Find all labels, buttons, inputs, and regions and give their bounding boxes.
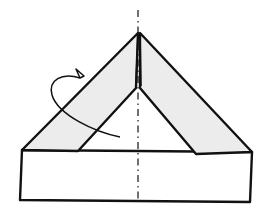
right-flap [140,33,252,154]
left-flap [22,33,138,151]
base-rectangle [20,150,252,202]
origami-diagram [0,0,269,220]
